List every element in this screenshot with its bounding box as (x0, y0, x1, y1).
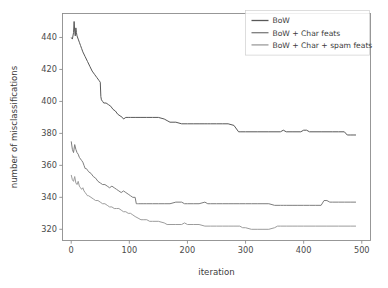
x-tick-label: 400 (296, 245, 312, 255)
x-tick-label: 500 (354, 245, 370, 255)
series-line-1 (71, 141, 356, 205)
x-axis-title: iteration (198, 267, 234, 277)
legend-label-2: BoW + Char + spam feats (273, 41, 373, 50)
legend-group[interactable]: BoWBoW + Char featsBoW + Char + spam fea… (246, 11, 373, 56)
y-tick-label: 340 (41, 192, 57, 202)
y-tick-label: 420 (41, 64, 57, 74)
x-tick-label: 100 (122, 245, 138, 255)
x-tick-label: 300 (238, 245, 254, 255)
series-line-2 (71, 175, 356, 229)
figure-canvas: 3203403603804004204400100200300400500 Bo… (0, 0, 388, 288)
y-tick-label: 380 (41, 128, 57, 138)
x-tick-label: 200 (180, 245, 196, 255)
chart-plot: 3203403603804004204400100200300400500 Bo… (0, 0, 388, 288)
y-tick-label: 440 (41, 32, 57, 42)
y-tick-label: 360 (41, 160, 57, 170)
y-tick-label: 400 (41, 96, 57, 106)
x-tick-label: 0 (69, 245, 74, 255)
legend-label-1: BoW + Char feats (273, 29, 341, 38)
legend-label-0: BoW (273, 16, 291, 25)
y-axis-title: number of misclassifications (9, 65, 19, 188)
y-tick-label: 320 (41, 224, 57, 234)
